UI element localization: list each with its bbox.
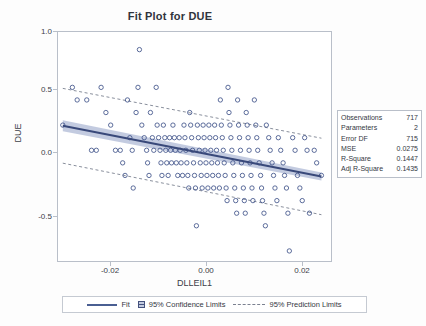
y-tick-label: 0.5 (0, 85, 52, 94)
data-point (234, 198, 238, 202)
data-point (260, 198, 264, 202)
stats-value: 0.1435 (391, 164, 421, 174)
data-point (199, 173, 203, 177)
data-point (136, 85, 140, 89)
stats-key: R-Square (338, 154, 391, 164)
chart-legend: Fit 95% Confidence Limits 95% Prediction… (62, 296, 367, 313)
data-point (234, 211, 238, 215)
data-point (215, 161, 219, 165)
data-point (188, 123, 192, 127)
stats-row: MSE0.0275 (338, 144, 421, 154)
data-point (213, 136, 217, 140)
data-point (163, 136, 167, 140)
legend-item-prediction-limits[interactable]: 95% Prediction Limits (233, 300, 341, 309)
data-point (70, 85, 74, 89)
y-axis-label: DUE (13, 103, 23, 163)
stats-table: Observations717Parameters2Error DF715MSE… (338, 113, 421, 175)
data-point (227, 110, 231, 114)
y-tick-label: -0.5 (0, 212, 52, 221)
x-tick-mark (302, 262, 303, 266)
data-point (286, 211, 290, 215)
data-point (267, 136, 271, 140)
data-point (140, 123, 144, 127)
legend-label-confidence: 95% Confidence Limits (149, 300, 226, 309)
fit-statistics-table: Observations717Parameters2Error DF715MSE… (337, 110, 422, 178)
data-point (221, 148, 225, 152)
y-tick-label: 0.0 (0, 148, 52, 157)
data-point (252, 98, 256, 102)
data-point (85, 98, 89, 102)
data-point (202, 136, 206, 140)
data-point (258, 173, 262, 177)
legend-item-confidence-limits[interactable]: 95% Confidence Limits (138, 300, 226, 309)
data-point (259, 186, 263, 190)
stats-row: R-Square0.1447 (338, 154, 421, 164)
data-point (194, 224, 198, 228)
data-point (113, 148, 117, 152)
legend-item-fit[interactable]: Fit (87, 300, 129, 309)
legend-label-fit: Fit (121, 300, 129, 309)
data-point (256, 148, 260, 152)
y-tick-mark (53, 152, 57, 153)
stats-row: Parameters2 (338, 123, 421, 133)
data-point (159, 161, 163, 165)
stats-row: Error DF715 (338, 134, 421, 144)
data-point (271, 173, 275, 177)
data-point (273, 186, 277, 190)
data-point (204, 161, 208, 165)
data-point (145, 161, 149, 165)
data-point (201, 123, 205, 127)
data-point (192, 173, 196, 177)
y-tick-label: 1.0 (0, 27, 52, 36)
data-point (155, 123, 159, 127)
data-point (185, 161, 189, 165)
data-point (279, 148, 283, 152)
data-point (243, 211, 247, 215)
data-point (144, 148, 148, 152)
y-tick-mark (53, 216, 57, 217)
x-tick-mark (206, 262, 207, 266)
data-point (238, 148, 242, 152)
x-axis-label: DLLEIL1 (57, 278, 332, 288)
data-point (225, 198, 229, 202)
data-point (75, 98, 79, 102)
data-point (247, 148, 251, 152)
stats-key: MSE (338, 144, 391, 154)
stats-value: 2 (391, 123, 421, 133)
stats-row: Observations717 (338, 113, 421, 123)
data-point (251, 198, 255, 202)
data-point (179, 161, 183, 165)
data-point (167, 136, 171, 140)
data-point (241, 186, 245, 190)
data-point (293, 148, 297, 152)
data-point (183, 136, 187, 140)
data-point (200, 186, 204, 190)
data-point (154, 85, 158, 89)
data-point (232, 173, 236, 177)
data-point (224, 186, 228, 190)
data-point (176, 173, 180, 177)
data-point (196, 136, 200, 140)
data-point (233, 186, 237, 190)
data-point (307, 211, 311, 215)
data-point (249, 173, 253, 177)
data-point (152, 148, 156, 152)
data-point (89, 148, 93, 152)
data-point (263, 224, 267, 228)
stats-row: Adj R-Square0.1435 (338, 164, 421, 174)
data-point (262, 211, 266, 215)
data-point (172, 136, 176, 140)
data-point (208, 136, 212, 140)
data-point (245, 123, 249, 127)
fit-line-swatch-icon (87, 304, 117, 306)
confidence-band-swatch-icon (138, 301, 145, 308)
data-point (217, 186, 221, 190)
x-tick-mark (110, 262, 111, 266)
data-point (211, 186, 215, 190)
data-point (276, 136, 280, 140)
x-tick-label: -0.02 (80, 266, 140, 275)
data-point (94, 148, 98, 152)
data-point (161, 123, 165, 127)
data-point (298, 186, 302, 190)
data-point (191, 161, 195, 165)
